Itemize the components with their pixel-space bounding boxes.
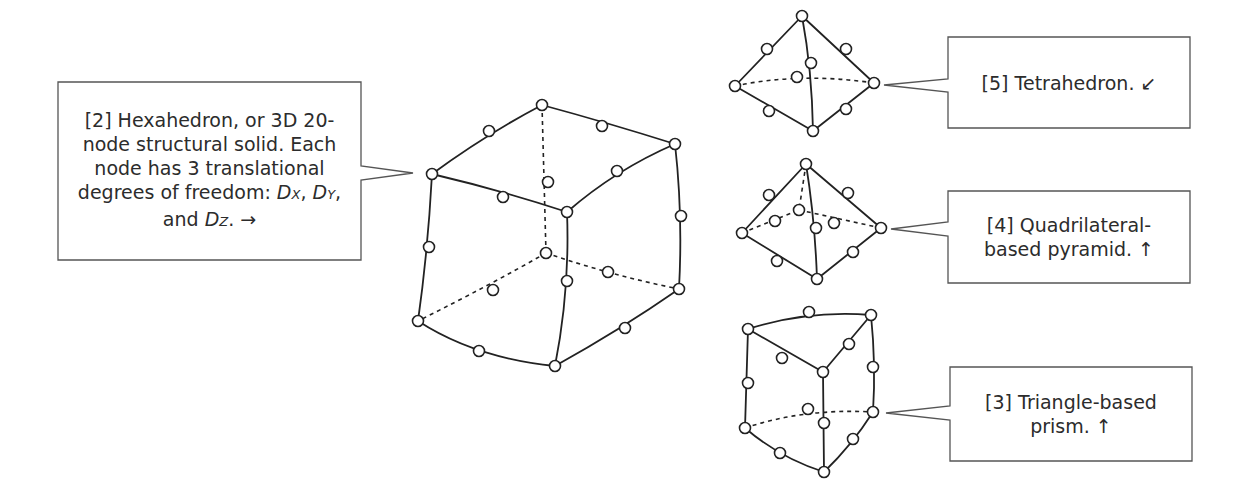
node-icon	[488, 285, 499, 296]
prism-element	[740, 307, 879, 478]
node-icon	[848, 247, 859, 258]
dx-symbol: D	[277, 181, 292, 203]
hexahedron-nodes	[413, 100, 687, 372]
node-icon	[474, 346, 485, 357]
and-label: and	[163, 208, 205, 230]
node-icon	[801, 159, 812, 170]
node-icon	[537, 100, 548, 111]
node-icon	[740, 423, 751, 434]
node-icon	[868, 407, 879, 418]
tetrahedron-callout-line: [5] Tetrahedron. ↙	[982, 71, 1157, 95]
node-icon	[674, 284, 685, 295]
node-icon	[612, 166, 623, 177]
node-icon	[764, 190, 775, 201]
node-icon	[676, 211, 687, 222]
node-icon	[424, 242, 435, 253]
node-icon	[762, 44, 773, 55]
hexahedron-callout-line: degrees of freedom: DX, DY,	[78, 180, 341, 207]
node-icon	[775, 448, 786, 459]
node-icon	[543, 177, 554, 188]
node-icon	[868, 362, 879, 373]
node-icon	[603, 267, 614, 278]
node-icon	[743, 378, 754, 389]
node-icon	[730, 81, 741, 92]
node-icon	[843, 188, 854, 199]
hexahedron-callout-line: node structural solid. Each	[83, 132, 337, 156]
node-icon	[770, 216, 781, 227]
separator: ,	[335, 181, 341, 203]
node-icon	[498, 192, 509, 203]
node-icon	[811, 223, 822, 234]
node-icon	[562, 276, 573, 287]
node-icon	[848, 434, 859, 445]
dy-subscript: Y	[327, 187, 335, 202]
node-icon	[427, 169, 438, 180]
node-icon	[764, 106, 775, 117]
hexahedron-callout-line: and DZ. →	[163, 207, 256, 234]
node-icon	[808, 126, 819, 137]
node-icon	[620, 323, 631, 334]
node-icon	[772, 256, 783, 267]
node-icon	[737, 228, 748, 239]
dz-subscript: Z	[219, 214, 228, 229]
node-icon	[562, 207, 573, 218]
node-icon	[792, 72, 803, 83]
separator: ,	[300, 181, 312, 203]
node-icon	[829, 218, 840, 229]
node-icon	[670, 139, 681, 150]
node-icon	[844, 339, 855, 350]
dof-label: degrees of freedom:	[78, 181, 277, 203]
node-icon	[541, 248, 552, 259]
node-icon	[743, 324, 754, 335]
node-icon	[866, 310, 877, 321]
node-icon	[819, 418, 830, 429]
pyramid-element	[737, 159, 887, 285]
node-icon	[413, 316, 424, 327]
node-icon	[804, 307, 815, 318]
pyramid-callout-line: based pyramid. ↑	[984, 237, 1154, 261]
node-icon	[806, 58, 817, 69]
hexahedron-callout-line: node has 3 translational	[94, 156, 324, 180]
node-icon	[841, 104, 852, 115]
node-icon	[819, 467, 830, 478]
prism-callout: [3] Triangle-based prism. ↑	[950, 367, 1192, 461]
hexahedron-callout: [2] Hexahedron, or 3D 20- node structura…	[58, 82, 361, 260]
node-icon	[597, 121, 608, 132]
node-icon	[550, 361, 561, 372]
prism-callout-line: [3] Triangle-based	[985, 390, 1157, 414]
hexahedron-element	[413, 100, 687, 372]
node-icon	[812, 274, 823, 285]
pyramid-callout: [4] Quadrilateral- based pyramid. ↑	[948, 191, 1190, 283]
arrow-right-icon: . →	[228, 208, 256, 230]
hexahedron-callout-line: [2] Hexahedron, or 3D 20-	[85, 108, 335, 132]
node-icon	[484, 126, 495, 137]
node-icon	[869, 78, 880, 89]
pyramid-nodes	[737, 159, 887, 285]
node-icon	[876, 223, 887, 234]
node-icon	[818, 367, 829, 378]
node-icon	[803, 404, 814, 415]
pyramid-callout-line: [4] Quadrilateral-	[987, 213, 1151, 237]
tetrahedron-callout: [5] Tetrahedron. ↙	[948, 37, 1190, 128]
node-icon	[777, 353, 788, 364]
prism-callout-line: prism. ↑	[1030, 414, 1112, 438]
dz-symbol: D	[205, 208, 220, 230]
dy-symbol: D	[312, 181, 327, 203]
node-icon	[841, 44, 852, 55]
node-icon	[797, 11, 808, 22]
node-icon	[794, 205, 805, 216]
tetrahedron-element	[730, 11, 880, 137]
